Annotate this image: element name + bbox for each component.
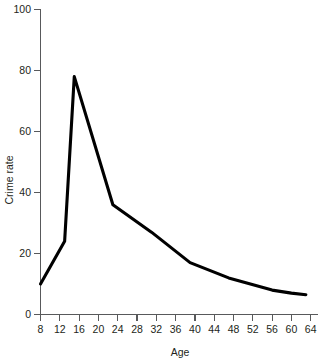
crime-rate-series-line (41, 77, 306, 295)
x-tick-label: 60 (286, 323, 298, 335)
y-axis-tick-labels: 100 80 60 40 20 0 (13, 3, 31, 320)
y-axis-ticks (34, 10, 41, 315)
y-tick-label: 60 (19, 125, 31, 137)
y-tick-label: 40 (19, 186, 31, 198)
x-tick-label: 36 (170, 323, 182, 335)
y-axis-title: Crime rate (3, 155, 15, 204)
x-tick-label: 40 (189, 323, 201, 335)
x-tick-label: 52 (247, 323, 259, 335)
y-tick-label: 100 (13, 3, 31, 15)
chart-canvas: 100 80 60 40 20 0 Crime rate (0, 0, 324, 363)
x-axis-ticks (41, 315, 311, 322)
x-tick-label: 32 (150, 323, 162, 335)
crime-rate-line-chart: 100 80 60 40 20 0 Crime rate (0, 0, 324, 363)
x-tick-label: 44 (208, 323, 220, 335)
x-tick-label: 28 (131, 323, 143, 335)
x-tick-label: 56 (266, 323, 278, 335)
y-tick-label: 80 (19, 64, 31, 76)
x-tick-label: 24 (112, 323, 124, 335)
x-tick-label: 16 (73, 323, 85, 335)
x-tick-label: 48 (228, 323, 240, 335)
x-tick-label: 8 (38, 323, 44, 335)
y-tick-label: 0 (25, 308, 31, 320)
x-axis-tick-labels: 8 12 16 20 24 28 32 36 40 44 48 52 56 60… (38, 323, 317, 335)
x-tick-label: 12 (54, 323, 66, 335)
x-tick-label: 20 (93, 323, 105, 335)
y-tick-label: 20 (19, 247, 31, 259)
x-axis-title: Age (171, 346, 190, 358)
x-tick-label: 64 (305, 323, 317, 335)
